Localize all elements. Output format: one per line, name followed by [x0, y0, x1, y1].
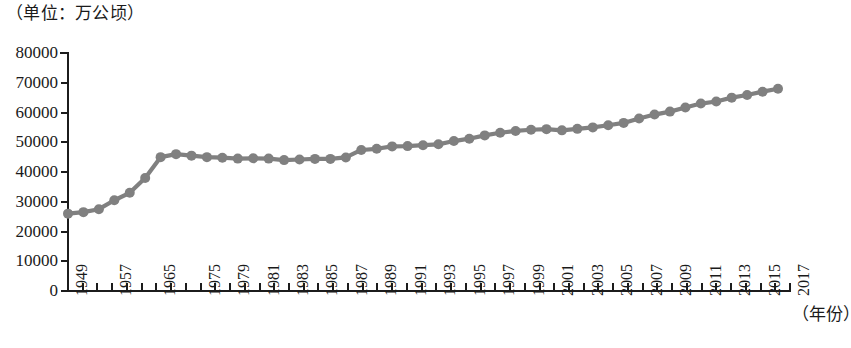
data-point-marker [680, 102, 690, 112]
line-series [0, 0, 851, 348]
data-point-marker [372, 144, 382, 154]
data-point-marker [449, 136, 459, 146]
data-point-marker [603, 120, 613, 130]
data-point-marker [125, 188, 135, 198]
data-point-marker [403, 141, 413, 151]
data-point-marker [727, 93, 737, 103]
data-point-marker [295, 155, 305, 165]
data-point-marker [217, 153, 227, 163]
data-point-marker [233, 154, 243, 164]
data-point-marker [264, 154, 274, 164]
data-point-marker [109, 195, 119, 205]
data-point-marker [557, 125, 567, 135]
data-point-marker [171, 149, 181, 159]
data-point-marker [63, 209, 73, 219]
data-point-marker [650, 110, 660, 120]
data-point-marker [696, 99, 706, 109]
data-point-marker [248, 153, 258, 163]
data-point-marker [464, 134, 474, 144]
data-point-marker [202, 152, 212, 162]
chart-container: （单位：万公顷） 8000070000600005000040000300002… [0, 0, 851, 348]
data-point-marker [511, 126, 521, 136]
data-point-marker [634, 113, 644, 123]
data-point-marker [279, 155, 289, 165]
data-point-marker [541, 124, 551, 134]
data-point-marker [619, 118, 629, 128]
data-point-marker [325, 154, 335, 164]
data-point-marker [387, 141, 397, 151]
data-point-marker [711, 96, 721, 106]
data-point-marker [742, 90, 752, 100]
data-point-marker [310, 154, 320, 164]
data-point-marker [186, 151, 196, 161]
x-axis-title: （年份） [792, 306, 851, 324]
data-point-marker [78, 207, 88, 217]
data-point-marker [418, 140, 428, 150]
data-point-marker [433, 139, 443, 149]
data-point-marker [94, 204, 104, 214]
data-point-marker [758, 87, 768, 97]
data-point-marker [356, 145, 366, 155]
data-point-marker [156, 152, 166, 162]
data-point-marker [588, 122, 598, 132]
data-point-marker [773, 84, 783, 94]
data-point-marker [665, 107, 675, 117]
data-point-marker [495, 128, 505, 138]
data-point-marker [140, 173, 150, 183]
data-point-marker [341, 152, 351, 162]
data-point-marker [572, 124, 582, 134]
data-point-marker [526, 125, 536, 135]
data-point-marker [480, 130, 490, 140]
